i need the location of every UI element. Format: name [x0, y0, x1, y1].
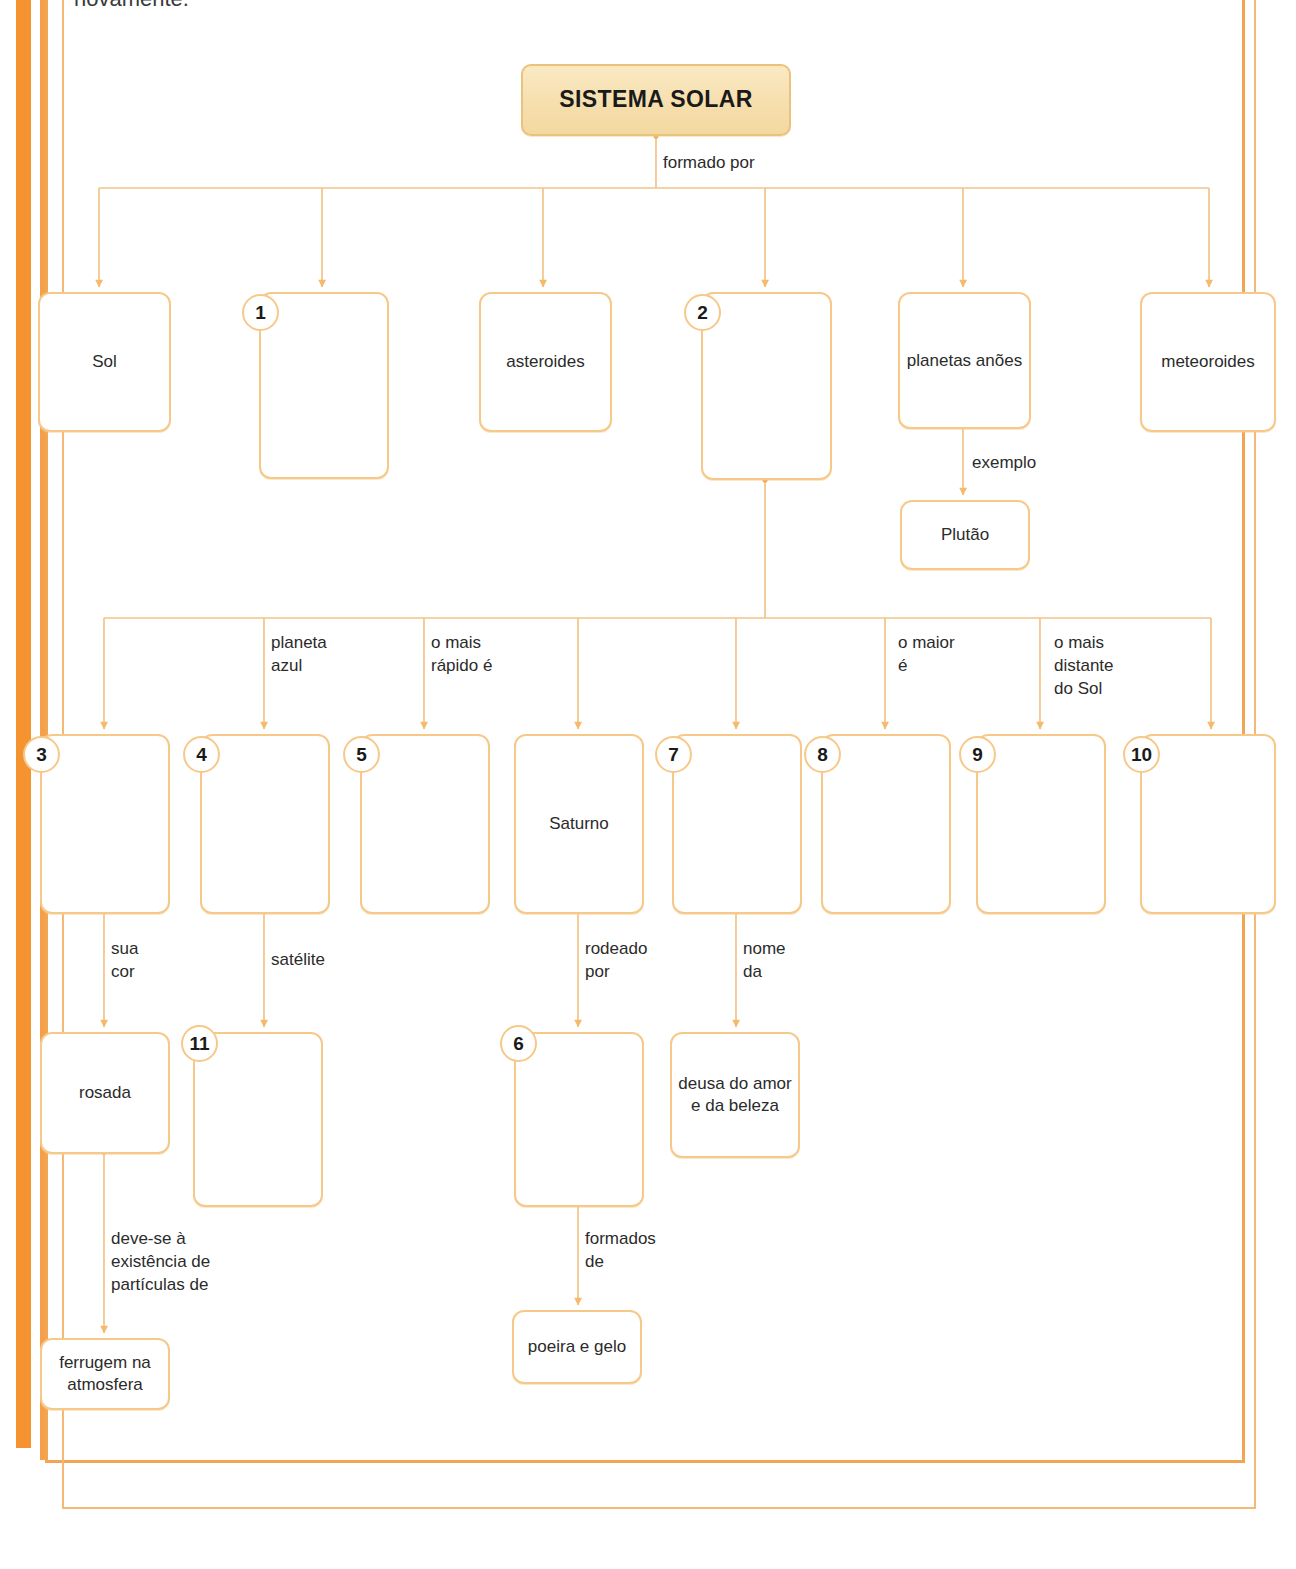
node-label: Plutão	[935, 522, 995, 548]
badge-5: 5	[343, 736, 380, 773]
node-sol[interactable]: Sol	[38, 292, 171, 432]
node-blank-11[interactable]	[193, 1032, 323, 1207]
edge-label-deve-se: deve-se à existência de partículas de	[111, 1228, 210, 1297]
node-label: Saturno	[543, 811, 615, 837]
badge-4: 4	[183, 736, 220, 773]
node-blank-10[interactable]	[1140, 734, 1276, 914]
badge-11: 11	[181, 1025, 218, 1062]
node-blank-7[interactable]	[672, 734, 802, 914]
badge-7: 7	[655, 736, 692, 773]
node-label: asteroides	[500, 349, 590, 375]
edge-label-exemplo: exemplo	[972, 452, 1036, 475]
node-blank-9[interactable]	[976, 734, 1106, 914]
node-blank-8[interactable]	[821, 734, 951, 914]
node-blank-3[interactable]	[40, 734, 170, 914]
edge-label-mais-distante: o mais distante do Sol	[1054, 632, 1114, 701]
node-label: SISTEMA SOLAR	[553, 83, 758, 116]
node-blank-2[interactable]	[701, 292, 832, 480]
concept-map: SISTEMA SOLAR formado por Sol 1 asteroid…	[0, 0, 1296, 1569]
badge-2: 2	[684, 294, 721, 331]
edge-label-sua-cor: sua cor	[111, 938, 138, 984]
node-deusa-do-amor[interactable]: deusa do amor e da beleza	[670, 1032, 800, 1158]
edge-label-nome-da: nome da	[743, 938, 786, 984]
badge-10: 10	[1123, 736, 1160, 773]
edge-label-formado-por: formado por	[663, 152, 755, 175]
node-poeira-e-gelo[interactable]: poeira e gelo	[512, 1310, 642, 1384]
node-ferrugem-atmosfera[interactable]: ferrugem na atmosfera	[40, 1338, 170, 1410]
edge-label-rodeado-por: rodeado por	[585, 938, 647, 984]
node-asteroides[interactable]: asteroides	[479, 292, 612, 432]
edge-label-satelite: satélite	[271, 949, 325, 972]
node-meteoroides[interactable]: meteoroides	[1140, 292, 1276, 432]
node-label: poeira e gelo	[522, 1334, 632, 1360]
edge-label-planeta-azul: planeta azul	[271, 632, 327, 678]
edge-label-formados-de: formados de	[585, 1228, 656, 1274]
node-blank-5[interactable]	[360, 734, 490, 914]
node-sistema-solar[interactable]: SISTEMA SOLAR	[521, 64, 791, 136]
edge-label-o-maior: o maior é	[898, 632, 955, 678]
node-label: ferrugem na atmosfera	[42, 1350, 168, 1398]
node-plutao[interactable]: Plutão	[900, 500, 1030, 570]
node-blank-6[interactable]	[514, 1032, 644, 1207]
badge-1: 1	[242, 294, 279, 331]
badge-8: 8	[804, 736, 841, 773]
node-blank-4[interactable]	[200, 734, 330, 914]
node-label: rosada	[73, 1080, 137, 1106]
node-label: meteoroides	[1155, 349, 1261, 375]
node-label: deusa do amor e da beleza	[672, 1071, 798, 1119]
badge-6: 6	[500, 1025, 537, 1062]
edge-label-mais-rapido: o mais rápido é	[431, 632, 492, 678]
node-rosada[interactable]: rosada	[40, 1032, 170, 1154]
node-label: Sol	[86, 349, 123, 375]
badge-3: 3	[23, 736, 60, 773]
badge-9: 9	[959, 736, 996, 773]
node-label: planetas anões	[901, 348, 1028, 374]
node-blank-1[interactable]	[259, 292, 389, 479]
node-saturno[interactable]: Saturno	[514, 734, 644, 914]
node-planetas-anoes[interactable]: planetas anões	[898, 292, 1031, 429]
